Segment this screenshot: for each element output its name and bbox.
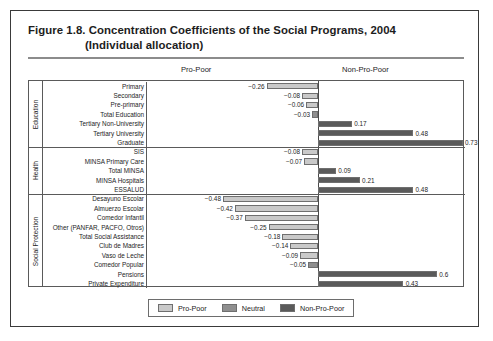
chart-row: Tertiary Non-University0.17 <box>43 119 464 128</box>
bar-value-label: −0.06 <box>284 100 304 109</box>
chart-row: Tertiary University0.48 <box>43 129 464 138</box>
figure-title: Figure 1.8. Concentration Coefficients o… <box>28 23 458 53</box>
category-label: Club de Madres <box>43 241 147 250</box>
category-label: Total MINSA <box>43 166 147 175</box>
chart-row: ESSALUD0.48 <box>43 185 464 194</box>
chart-row: SIS−0.08 <box>43 147 464 156</box>
bar-propoor <box>269 224 319 230</box>
category-label: Tertiary University <box>43 129 147 138</box>
chart-row: Secondary−0.08 <box>43 91 464 100</box>
bar-value-label: 0.73 <box>465 138 477 147</box>
bar-value-label: −0.37 <box>223 213 243 222</box>
chart-legend: Pro-PoorNeutralNon-Pro-Poor <box>148 299 354 317</box>
bar-value-label: 0.43 <box>406 279 418 288</box>
bar-nonpropoor <box>318 121 352 127</box>
category-label: Graduate <box>43 138 147 147</box>
category-label: Almuerzo Escolar <box>43 204 147 213</box>
chart-row: Club de Madres−0.14 <box>43 241 464 250</box>
bar-nonpropoor <box>318 168 336 174</box>
category-label: Pre-primary <box>43 100 147 109</box>
legend-item[interactable]: Non-Pro-Poor <box>280 304 344 313</box>
legend-label: Non-Pro-Poor <box>300 304 344 313</box>
category-label: Comedor Popular <box>43 260 147 269</box>
bar-track: −0.42 <box>148 204 464 213</box>
bar-track: 0.21 <box>148 176 464 185</box>
bar-track: −0.37 <box>148 213 464 222</box>
bar-value-label: −0.07 <box>282 157 302 166</box>
chart-row: Desayuno Escolar−0.48 <box>43 194 464 203</box>
bar-value-label: −0.48 <box>201 194 221 203</box>
chart-row: Graduate0.73 <box>43 138 464 147</box>
bar-track: −0.03 <box>148 110 464 119</box>
chart-row: Other (PANFAR, PACFO, Otros)−0.25 <box>43 223 464 232</box>
category-label: Tertiary Non-University <box>43 119 147 128</box>
bar-value-label: −0.14 <box>268 241 288 250</box>
bar-track: −0.14 <box>148 241 464 250</box>
chart-plot-area: Primary−0.26Secondary−0.08Pre-primary−0.… <box>28 80 464 287</box>
bar-neutral <box>308 262 318 268</box>
bar-nonpropoor <box>318 281 403 287</box>
chart-rows: Primary−0.26Secondary−0.08Pre-primary−0.… <box>43 81 463 286</box>
bar-track: 0.17 <box>148 119 464 128</box>
legend-swatch-neutral <box>222 304 237 312</box>
bar-nonpropoor <box>318 187 413 193</box>
bar-track: −0.48 <box>148 194 464 203</box>
bar-track: 0.48 <box>148 185 464 194</box>
figure-title-line-1: Figure 1.8. Concentration Coefficients o… <box>28 23 458 38</box>
figure-frame: Figure 1.8. Concentration Coefficients o… <box>10 10 479 327</box>
bar-track: −0.26 <box>148 82 464 91</box>
bar-propoor <box>304 158 318 164</box>
bar-propoor <box>282 234 318 240</box>
bar-track: −0.25 <box>148 223 464 232</box>
bar-track: 0.73 <box>148 138 464 147</box>
category-label: MINSA Hospitals <box>43 176 147 185</box>
chart-row: Primary−0.26 <box>43 82 464 91</box>
chart-row: Private Expenditure0.43 <box>43 279 464 288</box>
bar-value-label: −0.18 <box>260 232 280 241</box>
bar-value-label: −0.08 <box>280 91 300 100</box>
column-header-non-pro-poor: Non-Pro-Poor <box>342 65 389 74</box>
bar-value-label: 0.21 <box>362 176 374 185</box>
bar-track: −0.05 <box>148 260 464 269</box>
category-label: MINSA Primary Care <box>43 157 147 166</box>
chart-row: Total MINSA0.09 <box>43 166 464 175</box>
bar-track: −0.07 <box>148 157 464 166</box>
bar-value-label: 0.09 <box>338 166 350 175</box>
bar-value-label: 0.48 <box>416 129 428 138</box>
column-header-pro-poor: Pro-Poor <box>181 65 211 74</box>
category-label: Private Expenditure <box>43 279 147 288</box>
category-label: SIS <box>43 147 147 156</box>
chart-row: Pensions0.6 <box>43 270 464 279</box>
legend-label: Pro-Poor <box>178 304 207 313</box>
category-label: Total Education <box>43 110 147 119</box>
bar-value-label: 0.6 <box>439 270 448 279</box>
bar-nonpropoor <box>318 177 360 183</box>
group-divider <box>29 147 465 148</box>
bar-track: −0.08 <box>148 147 464 156</box>
bar-propoor <box>300 252 318 258</box>
category-label: Comedor Infantil <box>43 213 147 222</box>
bar-value-label: −0.08 <box>280 147 300 156</box>
legend-item[interactable]: Neutral <box>222 304 265 313</box>
chart-row: Comedor Popular−0.05 <box>43 260 464 269</box>
chart-row: Total Social Assistance−0.18 <box>43 232 464 241</box>
category-label: Vaso de Leche <box>43 251 147 260</box>
chart-row: Total Education−0.03 <box>43 110 464 119</box>
chart-row: Vaso de Leche−0.09 <box>43 251 464 260</box>
bar-value-label: 0.17 <box>354 119 366 128</box>
bar-value-label: −0.26 <box>245 82 265 91</box>
bar-propoor <box>290 243 318 249</box>
group-label-education: Education <box>29 82 43 148</box>
bar-track: 0.48 <box>148 129 464 138</box>
chart-row: Pre-primary−0.06 <box>43 100 464 109</box>
bar-value-label: −0.09 <box>278 251 298 260</box>
bar-propoor <box>267 83 318 89</box>
chart-row: Almuerzo Escolar−0.42 <box>43 204 464 213</box>
bar-track: 0.6 <box>148 270 464 279</box>
chart-row: MINSA Primary Care−0.07 <box>43 157 464 166</box>
category-label: Desayuno Escolar <box>43 194 147 203</box>
bar-value-label: −0.25 <box>247 223 267 232</box>
bar-nonpropoor <box>318 271 437 277</box>
legend-item[interactable]: Pro-Poor <box>158 304 207 313</box>
bar-track: −0.08 <box>148 91 464 100</box>
